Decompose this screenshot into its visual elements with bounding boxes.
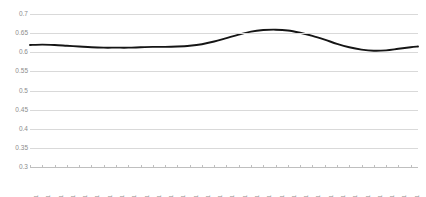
x-axis-tick-mark <box>288 165 289 168</box>
y-axis-tick-label: 0.65 <box>2 30 28 37</box>
y-axis-tick-label: 0.6 <box>2 49 28 56</box>
x-axis-tick-label: 61 <box>107 195 113 197</box>
x-axis-tick-mark <box>177 165 178 168</box>
x-axis-tick-mark <box>349 165 350 168</box>
x-axis-tick-label: 121 <box>180 195 186 197</box>
x-axis-tick-mark <box>153 165 154 168</box>
y-axis-tick-label: 0.5 <box>2 87 28 94</box>
gridline <box>30 14 418 15</box>
x-axis-tick-mark <box>67 165 68 168</box>
x-axis-tick-label: 151 <box>217 195 223 197</box>
x-axis-tick-mark <box>300 165 301 168</box>
x-axis-tick-label: 201 <box>279 195 285 197</box>
x-axis-tick-label: 251 <box>340 195 346 197</box>
x-axis-tick-mark <box>251 165 252 168</box>
x-axis-tick-mark <box>141 165 142 168</box>
x-axis-tick-label: 281 <box>377 195 383 197</box>
x-axis-tick-mark <box>337 165 338 168</box>
x-axis-tick-mark <box>116 165 117 168</box>
x-axis-tick-mark <box>398 165 399 168</box>
x-axis-tick-label: 191 <box>266 195 272 197</box>
x-axis-tick-label: 141 <box>205 195 211 197</box>
x-axis-tick-mark <box>263 165 264 168</box>
x-axis-tick-mark <box>165 165 166 168</box>
x-axis-tick-label: 51 <box>94 195 100 197</box>
gridline <box>30 33 418 34</box>
x-axis-tick-label: 261 <box>352 195 358 197</box>
x-axis-tick-mark <box>386 165 387 168</box>
x-axis-tick-label: 91 <box>144 195 150 197</box>
x-axis-tick-mark <box>362 165 363 168</box>
y-axis-tick-labels: 0.30.350.40.450.50.550.60.650.7 <box>0 14 28 167</box>
gridline <box>30 148 418 149</box>
x-axis-tick-mark <box>325 165 326 168</box>
gridline <box>30 110 418 111</box>
x-axis-tick-label: 21 <box>58 195 64 197</box>
x-axis-tick-label: 81 <box>131 195 137 197</box>
x-axis-tick-labels: 1112131415161718191101111121131141151161… <box>30 168 418 197</box>
line-chart: 0.30.350.40.450.50.550.60.650.7 11121314… <box>0 0 426 197</box>
x-axis-tick-label: 311 <box>414 195 420 197</box>
x-axis-tick-mark <box>202 165 203 168</box>
x-axis-tick-label: 241 <box>328 195 334 197</box>
x-axis-tick-mark <box>411 165 412 168</box>
x-axis-tick-mark <box>214 165 215 168</box>
x-axis-tick-mark <box>79 165 80 168</box>
x-axis-tick-mark <box>239 165 240 168</box>
x-axis-tick-mark <box>312 165 313 168</box>
gridline <box>30 52 418 53</box>
x-axis-tick-mark <box>42 165 43 168</box>
x-axis-tick-label: 11 <box>45 195 51 197</box>
y-axis-tick-label: 0.45 <box>2 106 28 113</box>
x-axis-tick-label: 221 <box>303 195 309 197</box>
x-axis-tick-mark <box>128 165 129 168</box>
x-axis-tick-mark <box>104 165 105 168</box>
x-axis-tick-label: 1 <box>33 195 39 197</box>
x-axis-tick-mark <box>55 165 56 168</box>
x-axis-tick-label: 41 <box>82 195 88 197</box>
x-axis-tick-label: 101 <box>156 195 162 197</box>
x-axis-tick-label: 181 <box>254 195 260 197</box>
gridline <box>30 91 418 92</box>
x-axis-tick-label: 291 <box>389 195 395 197</box>
gridline <box>30 129 418 130</box>
y-axis-tick-label: 0.4 <box>2 126 28 133</box>
x-axis-tick-label: 131 <box>193 195 199 197</box>
x-axis-tick-mark <box>374 165 375 168</box>
x-axis-tick-label: 31 <box>70 195 76 197</box>
x-axis-tick-label: 271 <box>365 195 371 197</box>
x-axis-tick-mark <box>91 165 92 168</box>
x-axis-tick-label: 161 <box>229 195 235 197</box>
x-axis-tick-label: 301 <box>401 195 407 197</box>
gridline <box>30 71 418 72</box>
x-axis-tick-label: 171 <box>242 195 248 197</box>
x-axis-tick-mark <box>276 165 277 168</box>
x-axis-tick-mark <box>30 165 31 168</box>
x-axis-tick-label: 231 <box>315 195 321 197</box>
y-axis-tick-label: 0.3 <box>2 164 28 171</box>
x-axis-tick-label: 71 <box>119 195 125 197</box>
y-axis-tick-label: 0.35 <box>2 145 28 152</box>
x-axis-tick-mark <box>226 165 227 168</box>
plot-area <box>30 14 418 167</box>
x-axis-tick-label: 211 <box>291 195 297 197</box>
y-axis-tick-label: 0.7 <box>2 11 28 18</box>
y-axis-tick-label: 0.55 <box>2 68 28 75</box>
x-axis-tick-mark <box>190 165 191 168</box>
x-axis-tick-label: 111 <box>168 195 174 197</box>
